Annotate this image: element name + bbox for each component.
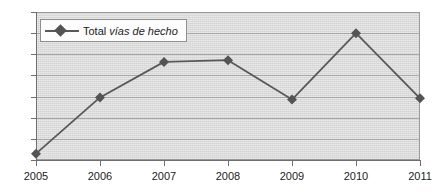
data-point-marker bbox=[223, 55, 233, 65]
series-line bbox=[36, 33, 420, 154]
legend-diamond-icon bbox=[54, 24, 67, 37]
legend-label: Total vías de hecho bbox=[83, 25, 178, 37]
line-chart: 050100150200250300350 200520062007200820… bbox=[0, 0, 445, 193]
legend-marker-icon bbox=[45, 25, 79, 37]
legend: Total vías de hecho bbox=[40, 19, 187, 42]
data-point-marker bbox=[159, 57, 169, 67]
legend-label-plain: Total bbox=[83, 25, 109, 37]
legend-label-italic: vías de hecho bbox=[109, 25, 178, 37]
